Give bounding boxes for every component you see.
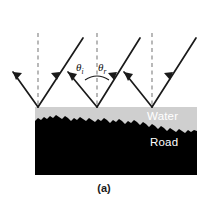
angle-of-incidence-label: θi [76, 61, 84, 76]
incident-arrowhead-3 [124, 72, 133, 81]
theta-r-subscript: r [103, 67, 106, 76]
normal-lines-group [38, 33, 152, 107]
diagram-canvas [0, 0, 208, 203]
panel-caption: (a) [0, 182, 208, 194]
angle-of-reflection-label: θr [98, 61, 106, 76]
reflection-diagram-figure: θi θr Water Road (a) [0, 0, 208, 203]
reflected-ray-3 [152, 38, 196, 107]
theta-i-subscript: i [81, 67, 83, 76]
